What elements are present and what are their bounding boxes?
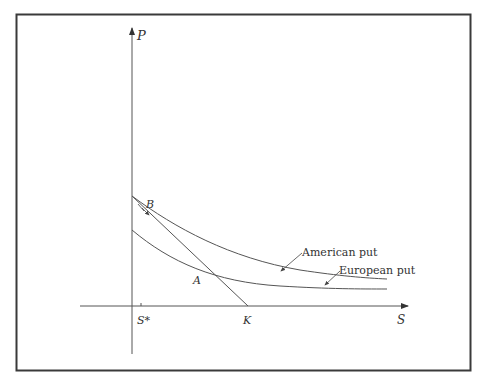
european-put-label: European put <box>339 264 416 277</box>
option-value-diagram: P S S* K B A American put European put <box>0 0 485 382</box>
x-axis-label: S <box>397 313 405 327</box>
european-put-pointer <box>325 271 340 285</box>
point-b-label: B <box>145 198 154 211</box>
k-label: K <box>242 314 252 327</box>
european-put-curve <box>132 230 387 289</box>
point-a-label: A <box>192 274 201 287</box>
s-star-label: S* <box>137 314 151 327</box>
y-axis-label: P <box>136 28 146 43</box>
american-put-label: American put <box>301 246 378 259</box>
